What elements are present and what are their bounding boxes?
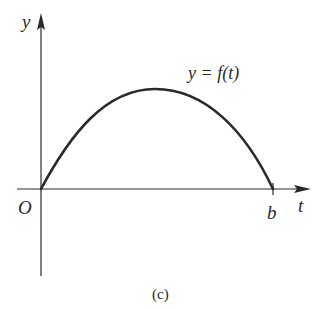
plot-canvas <box>0 0 329 309</box>
curve-f <box>41 89 273 189</box>
figure-caption: (c) <box>152 287 169 302</box>
t-axis-label: t <box>298 196 303 215</box>
figure: y y = f(t) O b t (c) <box>0 0 329 309</box>
origin-label: O <box>18 198 32 217</box>
y-axis-label: y <box>22 12 30 31</box>
curve-label: y = f(t) <box>188 64 239 82</box>
b-label: b <box>267 203 277 222</box>
